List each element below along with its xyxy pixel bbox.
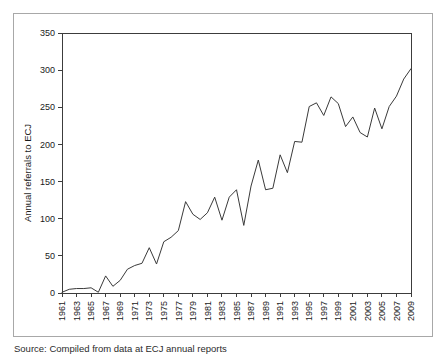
- x-tick-label: 2003: [363, 301, 373, 321]
- line-chart: Annual referrals to ECJ 0501001502002503…: [13, 13, 433, 337]
- y-tick-label: 150: [40, 177, 55, 187]
- x-tick-label: 1987: [246, 301, 256, 321]
- x-tick-label: 2001: [348, 301, 358, 321]
- x-tick-label: 1997: [319, 301, 329, 321]
- axis-lines: [62, 33, 411, 293]
- y-axis-ticks: 050100150200250300350: [40, 28, 62, 298]
- referrals-series-line: [62, 69, 411, 293]
- y-axis-title-group: Annual referrals to ECJ: [22, 124, 33, 222]
- x-axis-ticks: 1961196319651967196919711973197519771979…: [57, 293, 416, 321]
- x-tick-label: 2009: [406, 301, 416, 321]
- x-tick-label: 1991: [275, 301, 285, 321]
- y-tick-label: 350: [40, 28, 55, 38]
- x-tick-label: 1999: [333, 301, 343, 321]
- y-tick-label: 250: [40, 102, 55, 112]
- y-tick-label: 200: [40, 140, 55, 150]
- y-tick-label: 0: [50, 288, 55, 298]
- x-tick-label: 1993: [290, 301, 300, 321]
- x-tick-label: 1985: [232, 301, 242, 321]
- x-tick-label: 1971: [130, 301, 140, 321]
- y-tick-label: 100: [40, 214, 55, 224]
- x-tick-label: 2007: [392, 301, 402, 321]
- x-tick-label: 1973: [144, 301, 154, 321]
- x-tick-label: 1963: [72, 301, 82, 321]
- y-tick-label: 300: [40, 65, 55, 75]
- x-tick-label: 1981: [203, 301, 213, 321]
- x-tick-label: 1961: [57, 301, 67, 321]
- x-tick-label: 1983: [217, 301, 227, 321]
- x-tick-label: 1989: [261, 301, 271, 321]
- figure-caption: Source: Compiled from data at ECJ annual…: [14, 343, 434, 355]
- x-tick-label: 2005: [377, 301, 387, 321]
- x-tick-label: 1995: [304, 301, 314, 321]
- x-tick-label: 1979: [188, 301, 198, 321]
- x-tick-label: 1977: [174, 301, 184, 321]
- x-tick-label: 1967: [101, 301, 111, 321]
- x-tick-label: 1975: [159, 301, 169, 321]
- x-tick-label: 1969: [115, 301, 125, 321]
- x-tick-label: 1965: [86, 301, 96, 321]
- y-tick-label: 50: [45, 251, 55, 261]
- y-axis-title: Annual referrals to ECJ: [22, 124, 33, 222]
